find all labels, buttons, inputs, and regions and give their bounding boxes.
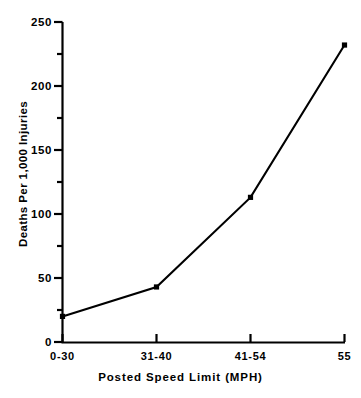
x-tick-label: 41-54: [235, 350, 267, 362]
x-tick-label: 55: [338, 350, 352, 362]
chart-figure: Deaths Per 1,000 Injuries 05010015020025…: [0, 0, 361, 398]
axis-lines: [62, 22, 346, 343]
data-markers: [60, 42, 347, 319]
x-ticks: [63, 334, 345, 342]
data-point-marker: [154, 284, 159, 289]
x-axis-label: Posted Speed Limit (MPH): [0, 371, 361, 383]
plot-area: [0, 0, 361, 398]
x-tick-label: 31-40: [141, 350, 173, 362]
data-point-marker: [248, 195, 253, 200]
data-point-marker: [60, 314, 65, 319]
x-tick-label: 0-30: [50, 350, 75, 362]
data-point-marker: [342, 42, 347, 47]
data-line: [63, 45, 345, 316]
